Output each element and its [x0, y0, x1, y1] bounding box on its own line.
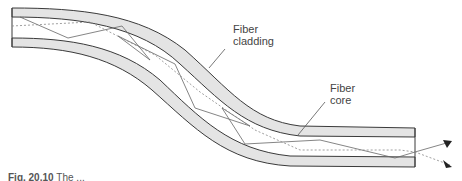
figure-caption: Fig. 20.10 The ...: [8, 172, 85, 181]
label-cladding-line1: Fiber: [233, 23, 274, 35]
optical-fiber-diagram: [0, 0, 462, 181]
label-fiber-cladding: Fiber cladding: [233, 23, 274, 47]
cladding-top-band: [12, 8, 415, 137]
label-core-line2: core: [330, 94, 355, 106]
arrow-head-lower-icon: [443, 160, 452, 168]
caption-number: Fig. 20.10: [8, 172, 54, 181]
label-fiber-core: Fiber core: [330, 82, 355, 106]
caption-text: The ...: [56, 172, 84, 181]
label-core-line1: Fiber: [330, 82, 355, 94]
leader-cladding: [209, 49, 225, 68]
label-cladding-line2: cladding: [233, 35, 274, 47]
